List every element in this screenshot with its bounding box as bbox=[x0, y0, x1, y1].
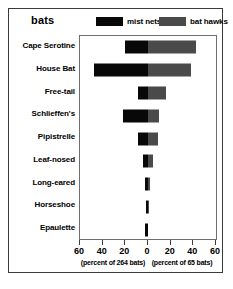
page-title: bats bbox=[31, 14, 54, 26]
bar-bat-hawks bbox=[148, 200, 149, 213]
axis-tick-label: 0 bbox=[144, 246, 149, 256]
bar-bat-hawks bbox=[148, 132, 158, 145]
category-axis-labels: Cape SerotineHouse BatFree-tailSchlieffe… bbox=[9, 35, 77, 240]
bar-row bbox=[80, 173, 216, 196]
legend-swatch-gray-icon bbox=[159, 17, 186, 26]
bar-row bbox=[80, 127, 216, 150]
category-label: Pipistrelle bbox=[38, 126, 75, 149]
plot-area bbox=[79, 35, 217, 240]
axis-tick bbox=[124, 240, 125, 245]
axis-tick bbox=[192, 240, 193, 245]
axis-tick-label: 40 bbox=[97, 246, 107, 256]
bar-bat-hawks bbox=[148, 155, 153, 168]
axis-tick-label: 20 bbox=[119, 246, 129, 256]
bar-row bbox=[80, 82, 216, 105]
category-label: Epaulette bbox=[40, 217, 75, 240]
category-label: Horseshoe bbox=[35, 194, 75, 217]
category-label: Long-eared bbox=[32, 172, 75, 195]
axis-tick-label: 40 bbox=[187, 246, 197, 256]
chart-figure: bats mist nets bat hawks Cape SerotineHo… bbox=[8, 8, 223, 273]
bar-mist-nets bbox=[125, 41, 148, 54]
legend-item-mist-nets: mist nets bbox=[96, 15, 161, 27]
category-label: Free-tail bbox=[45, 81, 75, 104]
category-label: Leaf-nosed bbox=[33, 149, 75, 172]
bar-row bbox=[80, 36, 216, 59]
axis-tick bbox=[102, 240, 103, 245]
bar-mist-nets bbox=[138, 86, 148, 99]
bar-row bbox=[80, 218, 216, 241]
axis-tick-label: 20 bbox=[165, 246, 175, 256]
bar-bat-hawks bbox=[148, 41, 196, 54]
bar-row bbox=[80, 104, 216, 127]
bar-bat-hawks bbox=[148, 64, 191, 77]
chart-header: bats mist nets bat hawks bbox=[9, 13, 222, 31]
legend-label-mist-nets: mist nets bbox=[127, 17, 161, 26]
bar-bat-hawks bbox=[148, 86, 166, 99]
bar-bat-hawks bbox=[148, 178, 150, 191]
axis-tick-label: 60 bbox=[74, 246, 84, 256]
bar-mist-nets bbox=[94, 64, 148, 77]
bar-mist-nets bbox=[145, 223, 148, 236]
axis-tick bbox=[215, 240, 216, 245]
axis-tick bbox=[147, 240, 148, 245]
axis-tick bbox=[79, 240, 80, 245]
axis-caption-right: (percent of 65 bats) bbox=[152, 259, 213, 266]
bar-row bbox=[80, 150, 216, 173]
category-label: Schlieffen's bbox=[32, 103, 75, 126]
legend-label-bat-hawks: bat hawks bbox=[190, 17, 228, 26]
bar-bat-hawks bbox=[148, 109, 159, 122]
legend-swatch-black-icon bbox=[96, 17, 123, 26]
legend-item-bat-hawks: bat hawks bbox=[159, 15, 228, 27]
axis-tick bbox=[170, 240, 171, 245]
bar-mist-nets bbox=[123, 109, 148, 122]
bar-row bbox=[80, 195, 216, 218]
axis-caption-left: (percent of 264 bats) bbox=[81, 259, 145, 266]
category-label: Cape Serotine bbox=[23, 35, 76, 58]
bar-row bbox=[80, 59, 216, 82]
axis-tick-label: 60 bbox=[210, 246, 220, 256]
bar-mist-nets bbox=[138, 132, 148, 145]
value-axis: 6040200204060(percent of 264 bats)(perce… bbox=[79, 240, 217, 274]
category-label: House Bat bbox=[36, 58, 75, 81]
